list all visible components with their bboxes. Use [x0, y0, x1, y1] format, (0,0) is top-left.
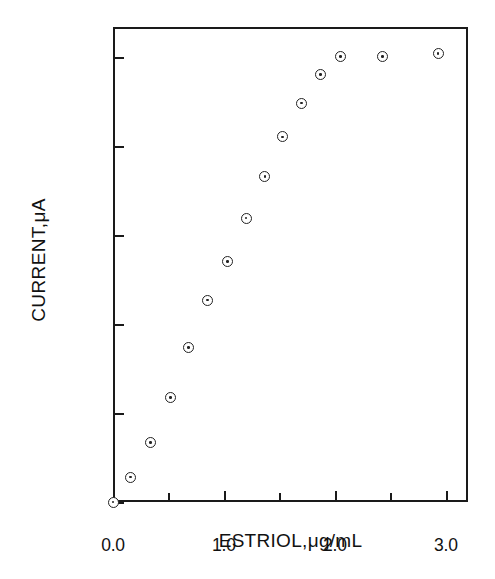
data-point-marker: [296, 98, 307, 109]
y-axis-tick: [113, 413, 124, 415]
x-axis-tick: [446, 491, 448, 502]
data-point-marker: [202, 295, 213, 306]
figure: 0.700.851.001.151.301.450.01.02.03.0 CUR…: [0, 0, 495, 579]
data-point-marker: [315, 69, 326, 80]
data-point-marker: [377, 51, 388, 62]
data-point-marker: [335, 51, 346, 62]
y-axis-tick: [113, 235, 124, 237]
data-point-marker: [108, 497, 119, 508]
data-point-marker: [165, 392, 176, 403]
x-axis-tick: [224, 491, 226, 502]
data-point-marker: [145, 437, 156, 448]
y-axis-tick: [113, 57, 124, 59]
x-axis-minor-tick: [279, 493, 281, 502]
data-point-marker: [222, 256, 233, 267]
data-point-marker: [433, 48, 444, 59]
data-point-marker: [259, 171, 270, 182]
data-point-marker: [277, 131, 288, 142]
data-point-marker: [241, 213, 252, 224]
x-axis-minor-tick: [390, 493, 392, 502]
x-axis-title: ESTRIOL,μg/mL: [113, 530, 468, 552]
y-axis-tick: [113, 324, 124, 326]
y-axis-tick: [113, 146, 124, 148]
x-axis-minor-tick: [168, 493, 170, 502]
data-point-marker: [125, 472, 136, 483]
x-axis-tick: [335, 491, 337, 502]
data-point-marker: [183, 342, 194, 353]
y-axis-title: CURRENT,μA: [28, 90, 50, 430]
plot-area: 0.700.851.001.151.301.450.01.02.03.0: [113, 27, 468, 502]
